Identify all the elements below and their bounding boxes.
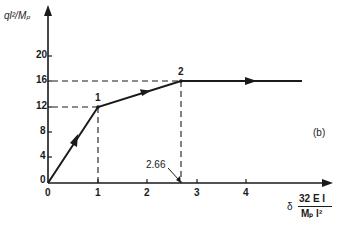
y-tick-label: 16 xyxy=(36,74,47,85)
y-axis-label: ql²/Mₚ xyxy=(4,10,30,21)
panel-label: (b) xyxy=(313,127,325,138)
y-tick-label: 8 xyxy=(40,125,46,136)
x-axis-label-denominator: Mₚ l² xyxy=(301,208,322,219)
load-deflection-line xyxy=(48,81,302,183)
annotation-2-66: 2.66 xyxy=(146,159,165,170)
annotation-leader xyxy=(168,168,179,180)
point-1-marker xyxy=(96,105,100,109)
x-tick-label: 4 xyxy=(243,187,249,198)
y-tick-label: 12 xyxy=(36,100,47,111)
x-tick-label: 0 xyxy=(45,187,51,198)
chart-plot xyxy=(0,0,342,226)
x-axis-label-prefix: δ xyxy=(287,201,293,212)
x-axis-arrow-icon xyxy=(322,179,333,187)
x-tick-label: 3 xyxy=(194,187,200,198)
y-tick-label: 4 xyxy=(40,150,46,161)
y-tick-label: 20 xyxy=(36,49,47,60)
y-tick-label: 0 xyxy=(40,174,46,185)
direction-arrow-icon xyxy=(245,77,257,85)
point-2-label: 2 xyxy=(178,66,184,77)
direction-arrow-icon xyxy=(70,134,78,147)
x-axis-label-numerator: 32 E I xyxy=(299,193,325,204)
x-tick-label: 2 xyxy=(144,187,150,198)
y-axis-arrow-icon xyxy=(44,5,52,16)
x-axis-label-fraction-bar xyxy=(298,206,332,207)
point-1-label: 1 xyxy=(95,92,101,103)
x-tick-label: 1 xyxy=(95,187,101,198)
point-2-marker xyxy=(179,79,183,83)
